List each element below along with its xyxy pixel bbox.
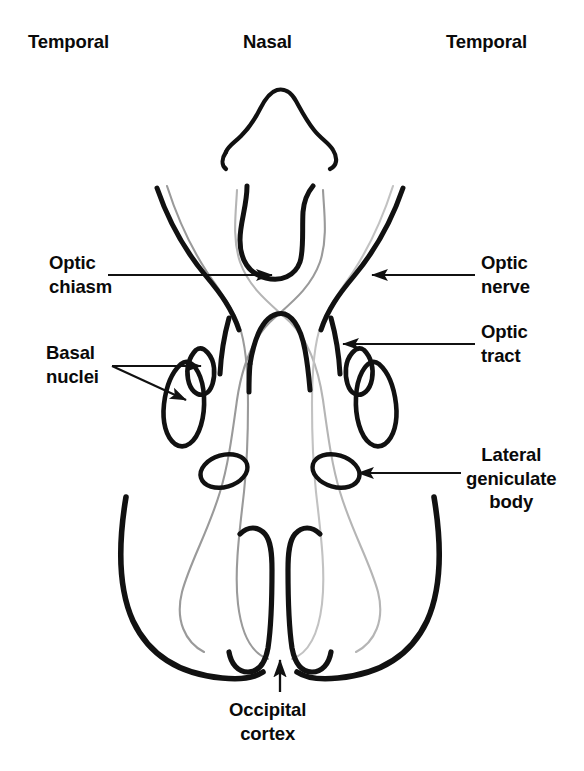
label-occipital-cortex: Occipital cortex	[229, 698, 306, 745]
optic-tract-left	[220, 318, 229, 374]
orientation-label-nasal: Nasal	[243, 30, 292, 54]
hypothalamic-midline	[249, 313, 310, 392]
occipital-cortex	[121, 497, 440, 679]
basal-nuclei-left	[163, 348, 214, 446]
label-optic-chiasm: Optic chiasm	[49, 251, 112, 298]
label-optic-nerve: Optic nerve	[481, 251, 530, 298]
label-optic-tract: Optic tract	[481, 320, 528, 367]
orientation-label-temporal-right: Temporal	[446, 30, 527, 54]
label-lateral-geniculate-body: Lateral geniculate body	[466, 443, 557, 514]
label-basal-nuclei: Basal nuclei	[46, 341, 99, 388]
nose-outline	[223, 89, 337, 169]
optic-tract-right	[331, 318, 340, 374]
optic-chiasm	[240, 186, 313, 279]
orientation-label-temporal-left: Temporal	[28, 30, 109, 54]
basal-nuclei-right	[346, 348, 397, 446]
figure-canvas: Temporal Nasal Temporal Optic chiasm Bas…	[0, 0, 584, 771]
lateral-geniculate-body-right	[309, 449, 364, 493]
lateral-geniculate-body-left	[197, 449, 252, 493]
